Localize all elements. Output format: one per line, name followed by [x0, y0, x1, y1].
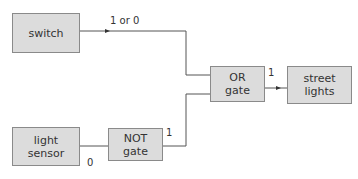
light-sensor-box: light sensor: [12, 127, 80, 166]
or-gate-label-2: gate: [225, 84, 250, 97]
street-lights-label-2: lights: [303, 85, 335, 98]
light-sensor-label-2: sensor: [28, 147, 64, 160]
or-output-label: 1: [268, 67, 274, 78]
switch-box: switch: [12, 13, 80, 53]
not-output-label: 1: [166, 127, 172, 138]
arrow-head-icon: [276, 86, 281, 90]
not-gate-label-1: NOT: [123, 132, 148, 145]
sensor-output-label: 0: [87, 157, 93, 168]
light-sensor-label-1: light: [28, 134, 64, 147]
not-gate-box: NOT gate: [108, 128, 163, 161]
arrow-head-icon: [105, 29, 110, 33]
street-lights-box: street lights: [287, 66, 352, 104]
or-gate-box: OR gate: [210, 66, 265, 102]
street-lights-label-1: street: [303, 72, 335, 85]
wire-switch-to-or: [80, 31, 210, 75]
switch-output-label: 1 or 0: [110, 15, 139, 26]
or-gate-label-1: OR: [225, 71, 250, 84]
not-gate-label-2: gate: [123, 145, 148, 158]
wire-not-to-or: [162, 94, 210, 146]
switch-label: switch: [28, 27, 63, 40]
